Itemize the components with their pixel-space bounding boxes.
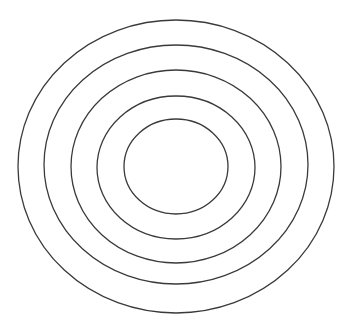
- ring-1: [18, 20, 334, 313]
- rings-group: [18, 20, 334, 313]
- ring-2: [44, 45, 308, 284]
- concentric-ellipses-diagram: [0, 0, 350, 326]
- ring-3: [71, 70, 281, 263]
- ring-4: [97, 96, 255, 239]
- ring-5: [124, 119, 228, 214]
